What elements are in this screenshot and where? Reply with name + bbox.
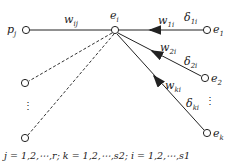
label-wij: wij xyxy=(64,14,78,28)
label-w1i: w1i xyxy=(158,15,174,29)
label-e1: e1 xyxy=(213,24,224,38)
label-wki: wki xyxy=(165,80,181,94)
label-d2i: δ2i xyxy=(184,56,197,70)
node-e1 xyxy=(203,26,210,33)
ellipsis-right: ⋮ xyxy=(205,99,211,103)
arrow-icon xyxy=(154,76,160,83)
label-d1i: δ1i xyxy=(184,12,197,26)
node-ek xyxy=(203,129,210,136)
node-ei xyxy=(111,26,118,33)
edge-dashed-1 xyxy=(29,33,112,81)
index-ranges-caption: j = 1,2,⋯,r; k = 1,2,⋯,s2; i = 1,2,⋯,s1 xyxy=(4,150,190,161)
ellipsis-left: ⋮ xyxy=(23,104,29,108)
node-e2 xyxy=(201,74,208,81)
label-w2i: w2i xyxy=(160,42,176,56)
edge-dashed-2 xyxy=(28,34,114,135)
label-ei: ei xyxy=(110,10,119,24)
label-e2: e2 xyxy=(211,73,222,87)
label-pj: pj xyxy=(7,24,16,38)
label-dki: δki xyxy=(186,98,199,112)
arrow-icon xyxy=(152,51,160,55)
node-hidden-1 xyxy=(21,79,28,86)
label-ek: ek xyxy=(213,128,224,142)
node-pj xyxy=(22,26,29,33)
node-hidden-n xyxy=(21,134,28,141)
